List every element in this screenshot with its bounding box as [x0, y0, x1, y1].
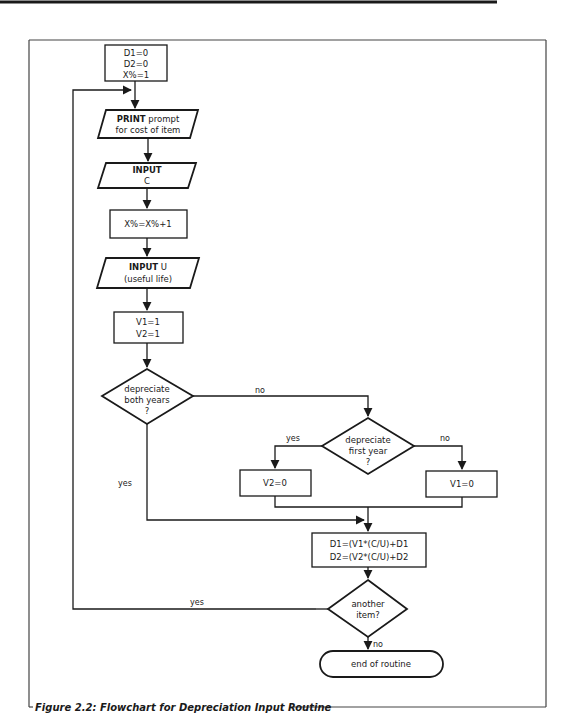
init-line-1: D1=0: [124, 48, 148, 58]
set-v-line-2: V2=1: [136, 329, 160, 339]
edge-label-both-yes: yes: [118, 479, 132, 488]
decision-both-line-3: ?: [145, 406, 150, 416]
set-v-line-1: V1=1: [136, 317, 160, 327]
accumulate-line-1: D1=(V1*(C/U)+D1: [330, 539, 409, 549]
set-v1-zero-text: V1=0: [450, 479, 474, 489]
edge-label-both-no: no: [255, 386, 265, 395]
print-line-1: PRINT prompt: [117, 114, 180, 124]
init-line-2: D2=0: [124, 59, 148, 69]
decision-another-line-2: item?: [356, 610, 380, 620]
print-line-2: for cost of item: [116, 125, 181, 135]
figure-caption: Figure 2.2: Flowchart for Depreciation I…: [35, 702, 332, 713]
edge-label-first-yes: yes: [286, 434, 300, 443]
input-c-var: C: [144, 176, 150, 186]
decision-another-line-1: another: [351, 599, 385, 609]
set-v2-zero-text: V2=0: [263, 478, 287, 488]
decision-first-line-2: first year: [349, 446, 388, 456]
accumulate-line-2: D2=(V2*(C/U)+D2: [330, 552, 409, 562]
flowchart-figure: Figure 2.2: Flowchart for Depreciation I…: [0, 0, 573, 727]
increment-text: X%=X%+1: [124, 219, 171, 229]
decision-both-line-1: depreciate: [124, 384, 169, 394]
edge-label-first-no: no: [440, 434, 450, 443]
decision-both-line-2: both years: [124, 395, 170, 405]
input-u-line-2: (useful life): [124, 274, 172, 284]
input-c-keyword: INPUT: [132, 165, 161, 175]
edge-label-another-no: no: [373, 640, 383, 649]
end-text: end of routine: [351, 659, 411, 669]
figure-frame: [29, 40, 546, 707]
decision-first-line-1: depreciate: [345, 435, 390, 445]
init-line-3: X%=1: [123, 70, 149, 80]
decision-first-line-3: ?: [366, 457, 371, 467]
input-u-line-1: INPUT U: [129, 262, 167, 272]
edge-label-another-yes: yes: [190, 598, 204, 607]
